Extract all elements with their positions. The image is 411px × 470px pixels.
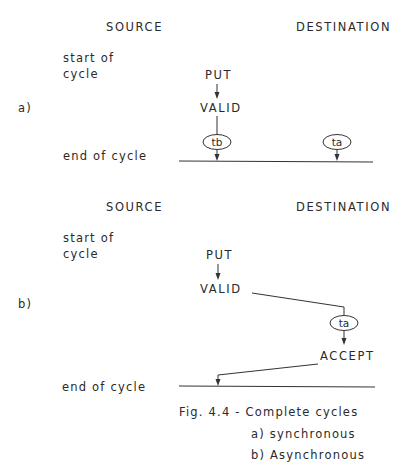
valid-signal: VALID [200,101,242,115]
start-of-cycle-label-2: cycle [63,247,99,261]
arrow-down-icon [216,379,221,386]
ta-delay-label: ta [332,136,343,148]
accept-to-end-line [218,364,318,383]
accept-signal: ACCEPT [320,349,375,363]
ta-delay-label: ta [339,317,350,329]
complete-cycles-diagram: SOURCE DESTINATION start of cycle a) PUT… [0,0,411,470]
panel-label: b) [18,297,32,311]
destination-header: DESTINATION [296,20,391,34]
destination-header: DESTINATION [296,200,391,214]
caption-line-b: b) Asynchronous [251,448,365,462]
source-header: SOURCE [106,200,163,214]
end-of-cycle-line [179,161,373,162]
panel-a: SOURCE DESTINATION start of cycle a) PUT… [18,20,391,163]
figure-caption: Fig. 4.4 - Complete cycles a) synchronou… [179,405,365,462]
panel-b: SOURCE DESTINATION start of cycle b) PUT… [18,200,391,394]
start-of-cycle-label-1: start of [63,231,114,245]
arrow-down-icon [216,273,221,280]
source-header: SOURCE [106,20,163,34]
arrow-down-icon [215,154,220,161]
end-of-cycle-label: end of cycle [63,149,147,163]
tb-delay-label: tb [212,136,223,148]
arrow-down-icon [342,338,347,345]
valid-to-ta-line [252,293,344,315]
caption-title: Fig. 4.4 - Complete cycles [179,405,358,419]
end-of-cycle-line [179,386,375,387]
arrow-down-icon [215,92,220,99]
put-signal: PUT [205,68,232,82]
valid-signal: VALID [200,282,242,296]
arrow-down-icon [335,154,340,161]
end-of-cycle-label: end of cycle [62,380,146,394]
start-of-cycle-label-1: start of [63,51,114,65]
put-signal: PUT [206,248,233,262]
start-of-cycle-label-2: cycle [63,67,99,81]
panel-label: a) [18,101,32,115]
caption-line-a: a) synchronous [251,427,356,441]
